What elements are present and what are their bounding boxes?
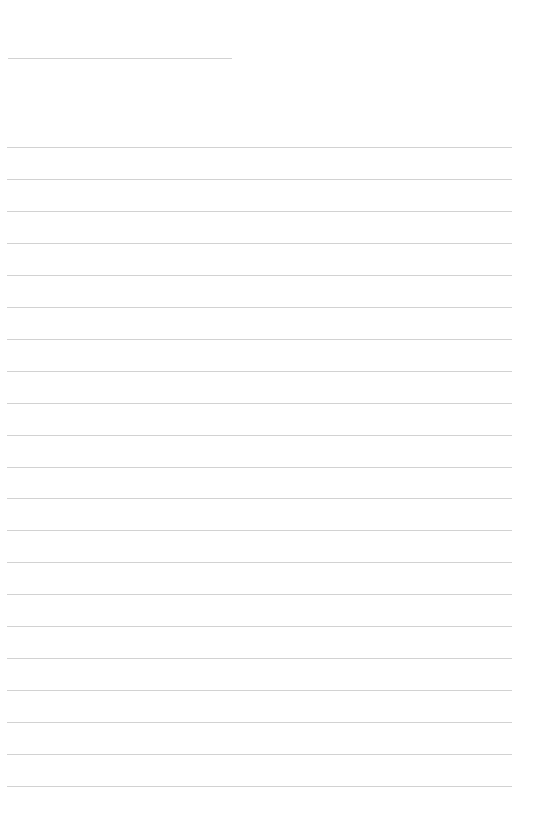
- ruled-line: [7, 594, 512, 595]
- ruled-line: [7, 786, 512, 787]
- ruled-line: [7, 658, 512, 659]
- ruled-line: [7, 179, 512, 180]
- ruled-line: [7, 562, 512, 563]
- ruled-line: [7, 626, 512, 627]
- header-title-line: [8, 58, 232, 59]
- lined-page: [0, 0, 542, 825]
- ruled-line: [7, 147, 512, 148]
- ruled-line: [7, 754, 512, 755]
- ruled-line: [7, 690, 512, 691]
- ruled-line: [7, 211, 512, 212]
- ruled-line: [7, 275, 512, 276]
- ruled-line: [7, 498, 512, 499]
- ruled-line: [7, 403, 512, 404]
- ruled-line: [7, 435, 512, 436]
- ruled-line: [7, 339, 512, 340]
- ruled-line: [7, 371, 512, 372]
- ruled-line: [7, 467, 512, 468]
- ruled-line: [7, 307, 512, 308]
- ruled-line: [7, 722, 512, 723]
- ruled-line: [7, 530, 512, 531]
- ruled-line: [7, 243, 512, 244]
